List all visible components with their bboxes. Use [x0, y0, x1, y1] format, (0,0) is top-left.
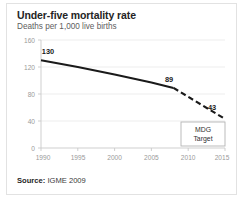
source-value: IGME 2009 [47, 176, 85, 185]
xtick-label-2000: 2000 [107, 154, 122, 161]
data-label-43: 43 [208, 103, 216, 112]
xtick-label-1995: 1995 [71, 154, 86, 161]
y-tick-labels: 160 120 80 40 0 [24, 37, 35, 152]
mdg-target-annotation: MDG Target [181, 122, 225, 146]
gridlines [41, 40, 225, 121]
ytick-label-120: 120 [24, 64, 35, 71]
ytick-label-40: 40 [28, 118, 36, 125]
xtick-label-1990: 1990 [36, 154, 51, 161]
chart-plot-area: 160 120 80 40 0 1990 1995 2000 2005 2010 [15, 34, 230, 174]
xtick-label-2010: 2010 [181, 154, 196, 161]
series-line-observed [41, 60, 173, 88]
chart-subtitle: Deaths per 1,000 live births [17, 22, 117, 31]
ytick-label-80: 80 [28, 91, 36, 98]
source-note: Source: IGME 2009 [17, 176, 86, 185]
data-label-130: 130 [42, 47, 54, 56]
line-chart-svg: 160 120 80 40 0 1990 1995 2000 2005 2010 [15, 34, 230, 174]
data-label-89: 89 [165, 75, 173, 84]
data-point-labels: 130 89 43 [42, 47, 216, 112]
x-tick-labels: 1990 1995 2000 2005 2010 2015 [36, 154, 230, 161]
ytick-label-0: 0 [31, 145, 35, 152]
xtick-label-2015: 2015 [215, 154, 230, 161]
ytick-label-160: 160 [24, 37, 35, 44]
xtick-label-2005: 2005 [144, 154, 159, 161]
series-line-projected [173, 88, 225, 119]
mdg-target-line1: MDG [195, 126, 211, 133]
page-title: Under-five mortality rate [17, 9, 136, 21]
chart-card: Under-five mortality rate Deaths per 1,0… [6, 3, 237, 195]
data-series-group [41, 60, 225, 119]
mdg-target-line2: Target [193, 135, 212, 143]
source-label: Source: [17, 176, 45, 185]
